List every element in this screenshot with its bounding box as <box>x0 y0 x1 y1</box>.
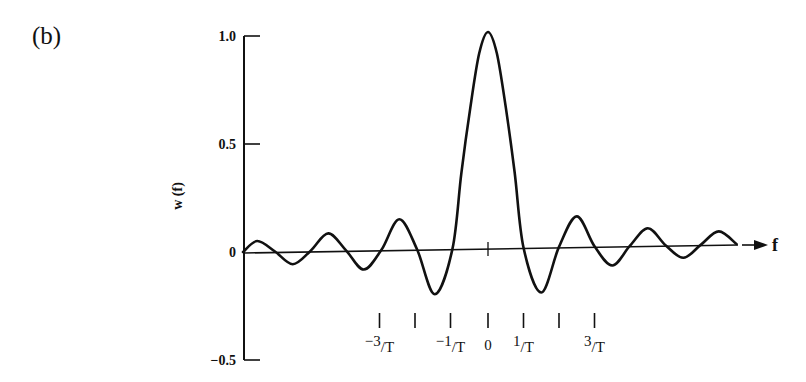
y-tick-label: 0 <box>229 245 236 260</box>
y-axis-title: w (f) <box>170 182 186 210</box>
x-tick-label: −3/T <box>365 333 394 355</box>
y-tick-label: 1.0 <box>219 29 237 44</box>
x-tick-label: 1/T <box>513 333 534 355</box>
y-tick-label: 0.5 <box>219 137 237 152</box>
chart: 1.00.50−0.5 −3/T−1/T01/T3/T w (f) f <box>0 0 806 382</box>
y-axis: 1.00.50−0.5 <box>211 29 260 368</box>
y-tick-label: −0.5 <box>211 353 236 368</box>
x-axis-line <box>244 245 738 253</box>
x-ticks: −3/T−1/T01/T3/T <box>365 313 605 355</box>
x-axis-title: f <box>772 235 779 255</box>
arrow-right-icon <box>754 240 768 250</box>
x-tick-label: 3/T <box>584 333 605 355</box>
x-tick-label: 0 <box>484 337 492 353</box>
x-tick-label: −1/T <box>436 333 465 355</box>
data-curve <box>243 32 737 294</box>
